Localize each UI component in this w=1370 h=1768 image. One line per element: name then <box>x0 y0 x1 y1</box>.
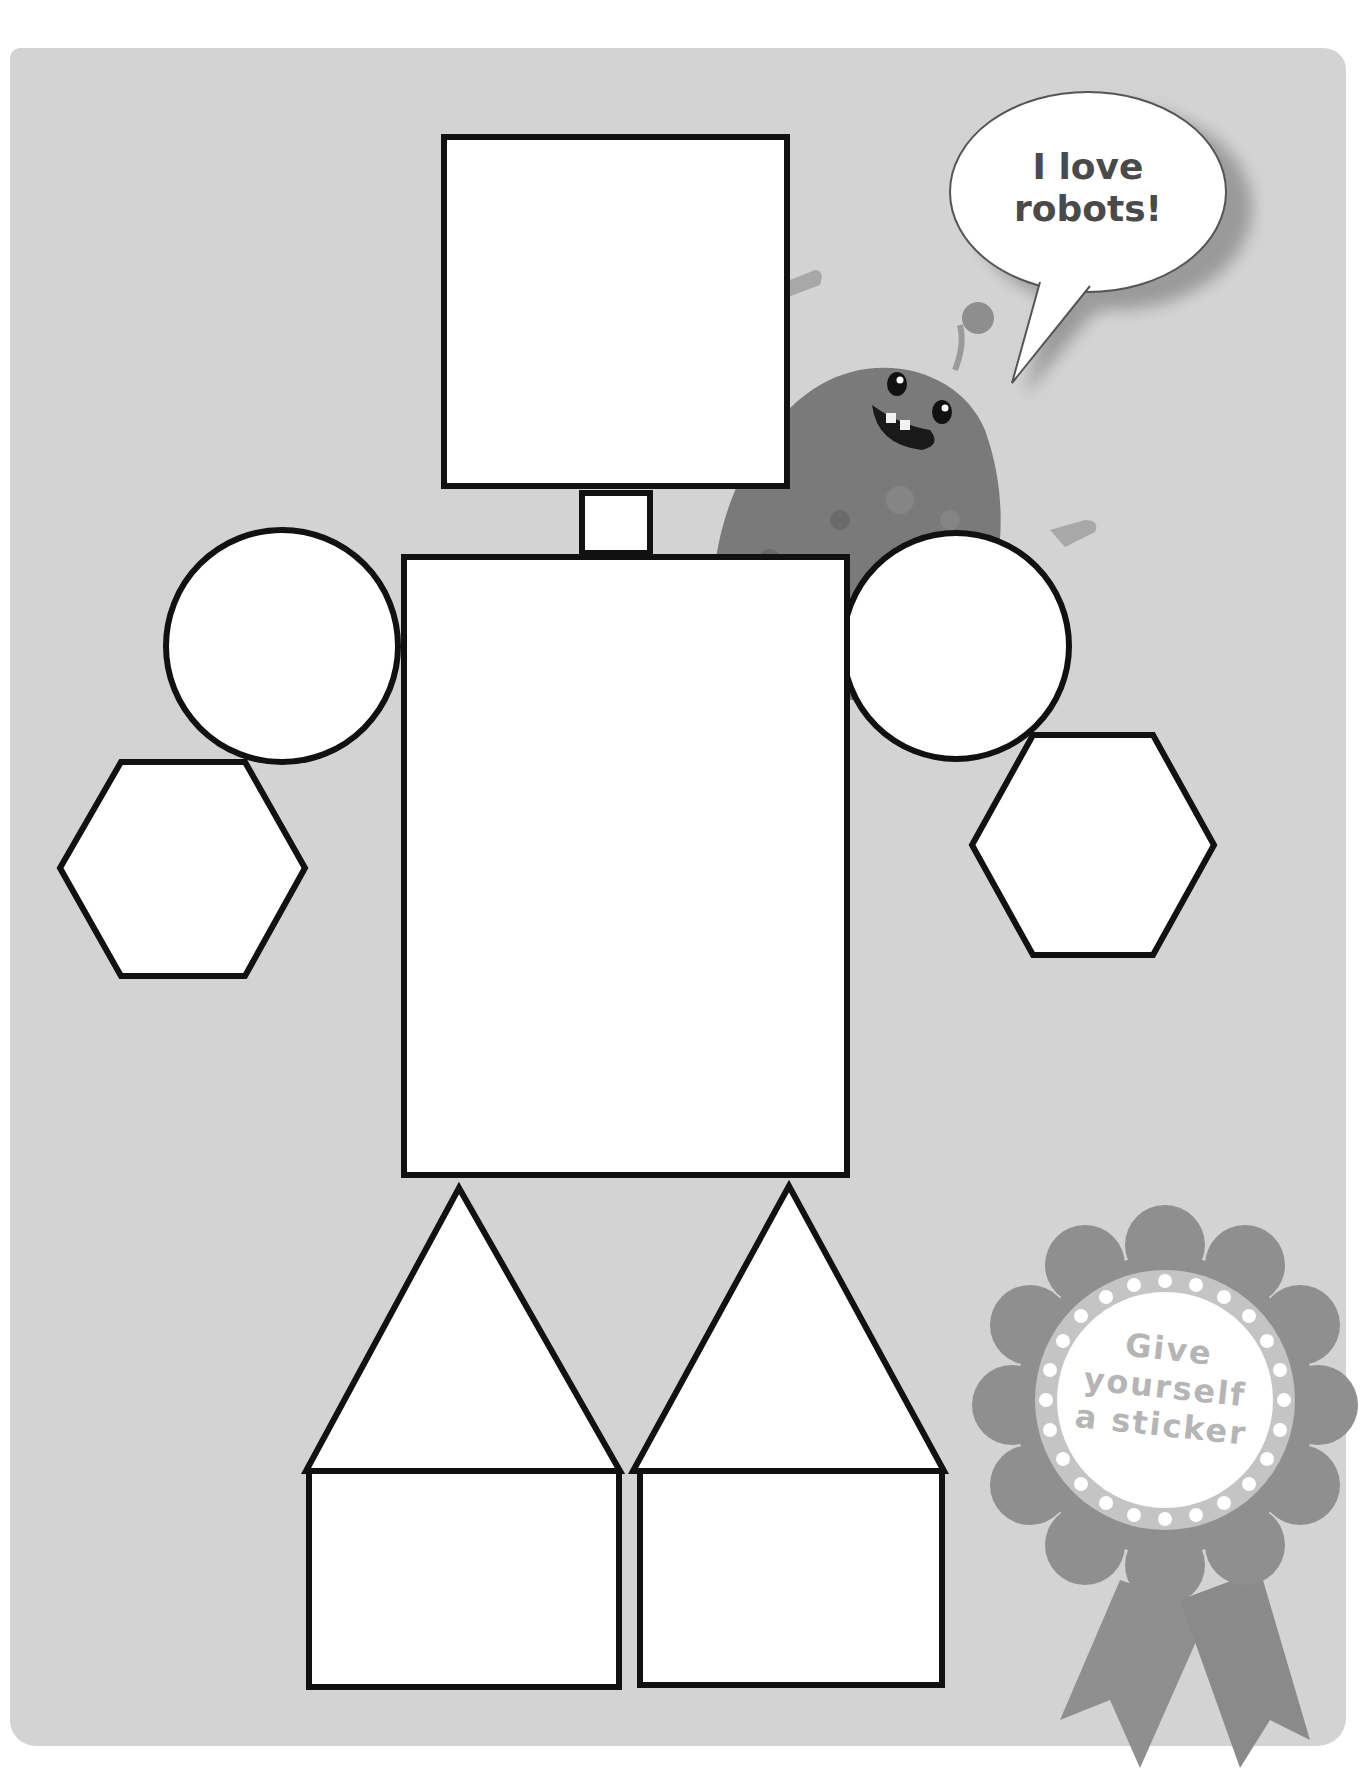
sticker-text: Give yourself a sticker <box>1055 1319 1276 1454</box>
robot-body-rectangle[interactable] <box>404 557 847 1175</box>
robot-left-shoulder-circle[interactable] <box>166 530 398 762</box>
robot-right-foot-rectangle[interactable] <box>640 1471 942 1685</box>
robot-right-hand-hexagon[interactable] <box>972 735 1214 955</box>
sticker-rosette <box>972 1205 1358 1768</box>
robot-neck-rectangle[interactable] <box>582 493 650 553</box>
robot-scene <box>0 0 1370 1768</box>
robot-head-square[interactable] <box>444 137 787 486</box>
robot-left-foot-rectangle[interactable] <box>309 1471 619 1687</box>
speech-bubble-text: I love robots! <box>988 146 1188 230</box>
robot-left-hand-hexagon[interactable] <box>60 762 305 976</box>
speech-bubble-line-2: robots! <box>988 188 1188 230</box>
robot-right-leg-triangle[interactable] <box>633 1186 944 1471</box>
speech-bubble <box>950 92 1252 396</box>
speech-bubble-line-1: I love <box>988 146 1188 188</box>
robot-left-leg-triangle[interactable] <box>306 1188 620 1471</box>
robot-right-shoulder-circle[interactable] <box>843 533 1069 759</box>
